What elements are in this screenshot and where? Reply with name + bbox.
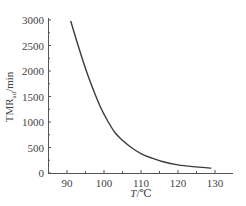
- y-tick-label: 500: [28, 142, 45, 154]
- chart-canvas: 90100110120130050010001500200025003000 T…: [0, 0, 246, 206]
- y-tick-label: 1500: [22, 91, 45, 103]
- x-tick-label: 120: [170, 177, 187, 189]
- x-tick-label: 100: [96, 177, 113, 189]
- y-axis-label: TMRad/min: [3, 71, 18, 122]
- axes: [48, 18, 233, 174]
- data-series-line: [71, 21, 212, 168]
- tick-labels: 90100110120130050010001500200025003000: [22, 14, 224, 189]
- y-tick-label: 3000: [22, 14, 45, 26]
- y-tick-label: 1000: [22, 116, 45, 128]
- x-tick-label: 90: [62, 177, 74, 189]
- x-axis-label: T/℃: [130, 187, 152, 199]
- x-tick-label: 130: [207, 177, 224, 189]
- y-tick-label: 0: [39, 167, 45, 179]
- y-tick-label: 2000: [22, 65, 45, 77]
- tick-marks: [48, 20, 215, 173]
- y-tick-label: 2500: [22, 40, 45, 52]
